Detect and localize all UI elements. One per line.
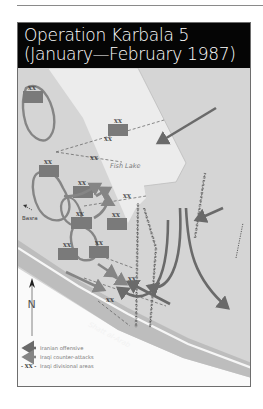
operation-map: XX XX XX XX XX XX XX XX XX XX XX XX XX [18,68,251,387]
svg-text:XX: XX [123,193,131,199]
map-title-bar: Operation Karbala 5 (January—February 19… [18,23,250,68]
map-figure: Operation Karbala 5 (January—February 19… [17,22,251,387]
division-boundary-symbol: - XX - [21,363,36,369]
svg-text:XX: XX [114,118,122,124]
svg-text:Iraqi divisional areas: Iraqi divisional areas [40,363,94,370]
svg-text:XX: XX [44,159,52,165]
svg-text:XX: XX [104,136,112,142]
svg-text:XX: XX [76,211,84,217]
svg-text:XX: XX [90,155,98,161]
svg-text:XX: XX [63,242,71,248]
svg-text:XX: XX [78,180,86,186]
fish-lake-label: Fish Lake [110,162,141,170]
top-rule [17,5,263,6]
map-title: Operation Karbala 5 [24,26,189,45]
basra-label: Basra [22,215,38,221]
svg-text:XX: XX [28,85,36,91]
svg-text:XX: XX [128,276,136,282]
north-label: N [28,298,36,311]
legend-item-iraqi-divisional-areas: - XX - Iraqi divisional areas [21,363,94,370]
map-legend: Iranian offensive Iraqi counter-attacks … [21,345,94,370]
svg-text:XX: XX [112,212,120,218]
map-subtitle-dates: (January—February 1987) [24,45,236,64]
svg-text:XX: XX [95,240,103,246]
svg-text:XX: XX [106,297,114,303]
svg-text:Iranian offensive: Iranian offensive [40,345,83,351]
svg-text:Iraqi counter-attacks: Iraqi counter-attacks [40,354,94,361]
